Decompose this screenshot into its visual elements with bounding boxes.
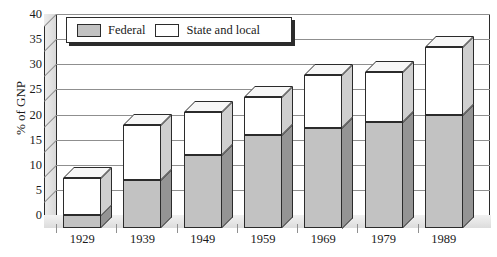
chart-legend[interactable]: Federal State and local [66, 17, 292, 43]
bar-1969-state-local-side [342, 64, 353, 128]
federal-swatch [77, 24, 101, 37]
bar-1959-federal-segment[interactable] [244, 135, 282, 228]
x-separator-5 [357, 224, 358, 233]
bar-1989-state-local-side [463, 36, 474, 115]
state-local-swatch [155, 24, 179, 37]
bar-1989-federal-segment[interactable] [425, 115, 463, 228]
bar-1969-state-local-segment[interactable] [304, 75, 342, 128]
x-separator-6 [418, 224, 419, 233]
bar-1929-state-local-segment[interactable] [63, 178, 101, 216]
y-axis-title: % of GNP [13, 53, 29, 163]
x-separator-0 [56, 224, 57, 233]
bar-1929-federal-segment[interactable] [63, 215, 101, 228]
x-tick-1969: 1969 [293, 232, 353, 247]
legend-label-federal: Federal [101, 23, 155, 38]
legend-item-state-local[interactable]: State and local [155, 23, 270, 38]
bar-1969-federal-segment[interactable] [304, 128, 342, 229]
legend-label-state-local: State and local [179, 23, 270, 38]
bar-1949-state-local-segment[interactable] [184, 112, 222, 155]
plot-back-left-edge [56, 14, 57, 227]
x-separator-1 [116, 224, 117, 233]
x-separator-4 [297, 224, 298, 233]
bar-1979-state-local-segment[interactable] [365, 72, 403, 122]
bar-1989-federal-side [463, 104, 474, 228]
bar-1939-state-local-segment[interactable] [123, 125, 161, 180]
x-separator-3 [237, 224, 238, 233]
bar-1969[interactable] [304, 0, 342, 228]
x-separator-2 [177, 224, 178, 233]
bar-1959-state-local-segment[interactable] [244, 97, 282, 135]
bar-1989-state-local-segment[interactable] [425, 47, 463, 115]
bar-1969-federal-side [342, 117, 353, 229]
x-tick-1949: 1949 [173, 232, 233, 247]
bar-1939-state-local-side [161, 114, 172, 180]
y-tick-40: 40 [6, 8, 42, 20]
x-axis-ticks: 1929193919491959196919791989 [0, 232, 497, 252]
x-tick-1929: 1929 [52, 232, 112, 247]
bar-1939-federal-segment[interactable] [123, 180, 161, 228]
bar-1979-federal-segment[interactable] [365, 122, 403, 228]
bar-1979-federal-side [403, 111, 414, 228]
x-tick-1979: 1979 [354, 232, 414, 247]
x-tick-1959: 1959 [233, 232, 293, 247]
bar-1989[interactable] [425, 0, 463, 228]
bar-1979[interactable] [365, 0, 403, 228]
bar-1959-federal-side [282, 124, 293, 228]
bar-1949-federal-segment[interactable] [184, 155, 222, 228]
x-tick-1939: 1939 [112, 232, 172, 247]
y-tick-35: 35 [6, 33, 42, 45]
bar-1949-federal-side [222, 144, 233, 228]
x-tick-1989: 1989 [414, 232, 474, 247]
y-tick-5: 5 [6, 184, 42, 196]
gnp-stacked-bar-chart: 4035302520151050 % of GNP 19291939194919… [0, 0, 497, 257]
legend-item-federal[interactable]: Federal [67, 23, 155, 38]
y-tick-0: 0 [6, 209, 42, 221]
